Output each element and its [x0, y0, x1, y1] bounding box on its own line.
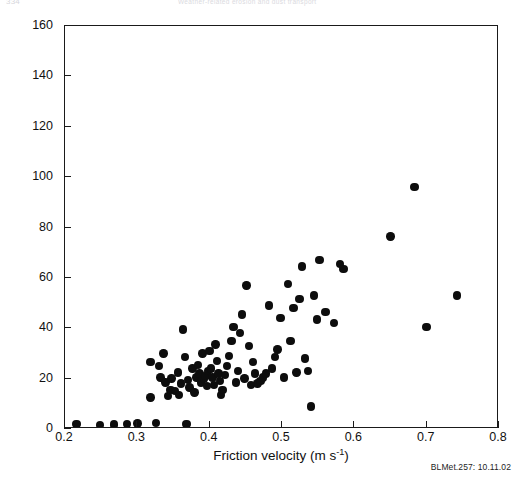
x-axis-tick — [426, 421, 427, 428]
data-point — [152, 419, 160, 427]
data-point — [339, 265, 347, 273]
data-point — [286, 337, 294, 345]
data-point — [422, 323, 430, 331]
data-point — [211, 340, 219, 348]
data-point — [268, 364, 276, 372]
x-axis-tick-label: 0.3 — [111, 431, 161, 444]
data-point — [307, 402, 315, 410]
data-point — [295, 295, 303, 303]
y-axis-tick — [64, 126, 71, 127]
data-point — [301, 354, 309, 362]
x-axis-title: Friction velocity (m s-1) — [64, 448, 498, 463]
y-axis-tick-label: 160 — [0, 19, 53, 32]
y-axis-tick-label: 120 — [0, 120, 53, 133]
y-axis-tick-label: 140 — [0, 69, 53, 82]
y-axis-tick — [64, 25, 71, 26]
data-point — [182, 420, 190, 427]
x-axis-tick-label: 0.4 — [184, 431, 234, 444]
x-axis-tick — [281, 421, 282, 428]
figure-code-label: BLMet.257: 10.11.02 — [431, 462, 511, 472]
x-axis-tick — [209, 421, 210, 428]
data-point — [174, 368, 182, 376]
data-point — [453, 291, 461, 299]
x-axis-tick-label: 0.5 — [256, 431, 306, 444]
scatter-chart-figure: 0204060801001201401600.20.30.40.50.60.70… — [0, 0, 520, 482]
data-point — [213, 357, 221, 365]
y-axis-tick-label: 20 — [0, 372, 53, 385]
data-point — [190, 388, 198, 396]
data-point — [321, 308, 329, 316]
x-axis-title-text: Friction velocity (m s — [213, 448, 336, 463]
data-point — [304, 367, 312, 375]
data-point — [227, 337, 235, 345]
data-point — [133, 419, 141, 427]
x-axis-tick — [64, 421, 65, 428]
y-axis-tick — [64, 176, 71, 177]
x-axis-tick-label: 0.8 — [473, 431, 520, 444]
data-point — [284, 280, 292, 288]
data-point — [179, 325, 187, 333]
y-axis-tick — [64, 327, 71, 328]
data-point — [410, 183, 418, 191]
data-point — [386, 232, 394, 240]
y-axis-tick-label: 60 — [0, 271, 53, 284]
x-axis-tick-label: 0.6 — [328, 431, 378, 444]
data-point — [159, 349, 167, 357]
data-point — [96, 421, 104, 427]
data-point — [265, 301, 273, 309]
y-axis-tick-label: 100 — [0, 170, 53, 183]
data-point — [245, 342, 253, 350]
x-axis-tick — [498, 421, 499, 428]
data-point — [273, 345, 281, 353]
data-point — [315, 256, 323, 264]
y-axis-tick — [64, 428, 71, 429]
data-point — [194, 361, 202, 369]
x-axis-tick — [136, 421, 137, 428]
data-point — [146, 393, 154, 401]
data-point — [310, 291, 318, 299]
x-axis-title-tail: ) — [344, 448, 349, 463]
data-point — [330, 319, 338, 327]
data-point — [225, 352, 233, 360]
data-point — [221, 371, 229, 379]
data-point — [181, 353, 189, 361]
y-axis-tick-label: 40 — [0, 321, 53, 334]
x-axis-tick-label: 0.7 — [401, 431, 451, 444]
data-point — [232, 378, 240, 386]
data-point — [236, 329, 244, 337]
data-point — [298, 262, 306, 270]
data-point — [238, 310, 246, 318]
data-point — [110, 420, 118, 427]
data-point — [223, 362, 231, 370]
x-axis-tick-label: 0.2 — [39, 431, 89, 444]
y-axis-tick — [64, 277, 71, 278]
data-point — [218, 386, 226, 394]
data-point — [271, 353, 279, 361]
data-point — [242, 281, 250, 289]
data-point — [175, 391, 183, 399]
data-point — [72, 420, 80, 427]
data-point — [123, 420, 131, 427]
y-axis-tick — [64, 378, 71, 379]
data-point — [276, 314, 284, 322]
x-axis-tick — [353, 421, 354, 428]
data-point — [292, 368, 300, 376]
data-point — [146, 358, 154, 366]
data-point — [280, 373, 288, 381]
y-axis-title-wrap: Sand transport rate (g m-1 s-1) — [0, 210, 170, 230]
data-point — [155, 362, 163, 370]
data-point — [313, 315, 321, 323]
data-point — [289, 304, 297, 312]
data-point — [249, 358, 257, 366]
y-axis-tick — [64, 75, 71, 76]
